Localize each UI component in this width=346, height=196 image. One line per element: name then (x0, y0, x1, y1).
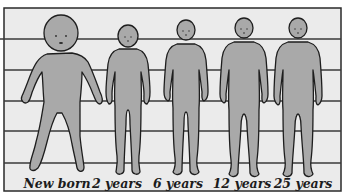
label-6-years: 6 years (153, 176, 203, 191)
label-25-years: 25 years (274, 176, 333, 191)
label-2-years: 2 years (92, 176, 142, 191)
diagram-canvas (0, 0, 346, 196)
growth-diagram: New born 2 years 6 years 12 years 25 yea… (0, 0, 346, 196)
label-newborn: New born (23, 176, 90, 191)
label-12-years: 12 years (213, 176, 272, 191)
